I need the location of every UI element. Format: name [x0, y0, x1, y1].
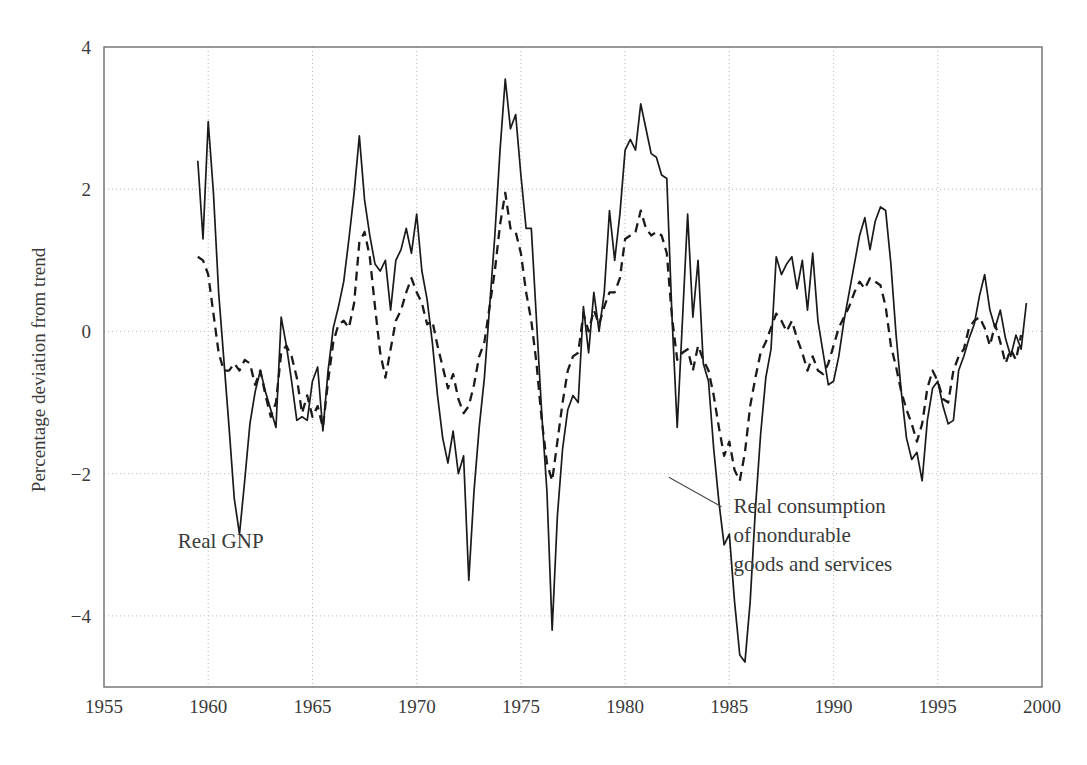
x-tick-label: 1975: [502, 696, 540, 717]
x-tick-label: 1990: [815, 696, 853, 717]
y-tick-label: 2: [82, 179, 92, 200]
real-consumption-label-line: Real consumption: [734, 494, 887, 518]
y-tick-label: −4: [71, 606, 92, 627]
gridlines: [104, 47, 1042, 687]
x-tick-label: 1970: [398, 696, 436, 717]
y-tick-label: 0: [82, 321, 92, 342]
x-tick-label: 1955: [85, 696, 123, 717]
x-tick-label: 1960: [189, 696, 227, 717]
y-axis-title: Percentage deviation from trend: [28, 247, 49, 492]
annotations-layer: Real GNPReal consumptionof nondurablegoo…: [178, 477, 892, 576]
series-real-gnp: [198, 79, 1027, 662]
x-tick-label: 1980: [606, 696, 644, 717]
x-tick-label: 2000: [1023, 696, 1061, 717]
series-real-consumption: [198, 193, 1021, 481]
real-gnp-label: Real GNP: [178, 529, 264, 553]
x-tick-label: 1985: [710, 696, 748, 717]
y-axis-title-text: Percentage deviation from trend: [28, 247, 49, 492]
x-tick-label: 1995: [919, 696, 957, 717]
tick-labels-layer: 1955196019651970197519801985199019952000…: [71, 37, 1061, 717]
data-series-layer: [198, 79, 1027, 662]
chart-figure: Real GNPReal consumptionof nondurablegoo…: [0, 0, 1087, 765]
y-tick-label: 4: [82, 37, 92, 58]
plot-border: [104, 47, 1042, 687]
line-chart: Real GNPReal consumptionof nondurablegoo…: [0, 0, 1087, 765]
real-consumption-label-line: goods and services: [734, 552, 893, 576]
real-consumption-label-line: of nondurable: [734, 523, 851, 547]
x-tick-label: 1965: [293, 696, 331, 717]
y-tick-label: −2: [71, 464, 91, 485]
annotation-leader-line: [669, 477, 722, 507]
plot-frame: [104, 47, 1042, 687]
